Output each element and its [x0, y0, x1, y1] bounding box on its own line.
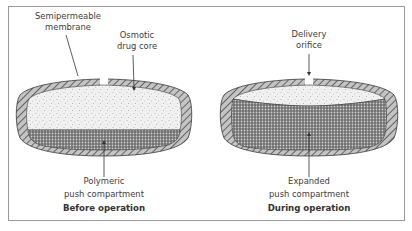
label-line: Delivery — [292, 29, 327, 40]
label-line: Expanded — [269, 176, 349, 187]
label-line: orifice — [292, 40, 327, 51]
label-semipermeable-membrane: Semipermeable membrane — [35, 11, 101, 33]
label-line: push compartment — [269, 189, 349, 200]
tablet-during — [220, 54, 398, 177]
label-expanded-push-compartment: Expanded push compartment — [269, 176, 349, 200]
caption-before-operation: Before operation — [63, 203, 145, 213]
caption-during-operation: During operation — [268, 203, 351, 213]
label-line: Osmotic — [117, 30, 157, 41]
label-line: Semipermeable — [35, 11, 101, 22]
osmotic-pump-diagram — [0, 0, 412, 231]
label-line: drug core — [117, 41, 157, 52]
osmotic-drug-core — [27, 85, 182, 130]
label-osmotic-drug-core: Osmotic drug core — [117, 30, 157, 52]
label-delivery-orifice: Delivery orifice — [292, 29, 327, 51]
label-line: membrane — [35, 22, 101, 33]
tablet-before — [16, 35, 192, 177]
label-line: push compartment — [64, 189, 144, 200]
label-line: Polymeric — [64, 176, 144, 187]
label-polymeric-push-compartment: Polymeric push compartment — [64, 176, 144, 200]
